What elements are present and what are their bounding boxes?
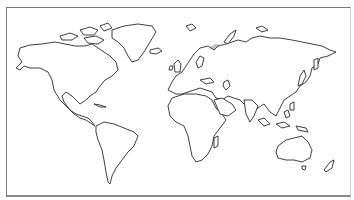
iceland [150, 48, 162, 54]
british-isles [169, 60, 181, 72]
south-america [96, 122, 138, 184]
world-map [0, 0, 354, 200]
madagascar [214, 136, 218, 148]
north-america [16, 42, 118, 126]
greenland [112, 24, 156, 62]
india [244, 100, 258, 122]
philippines [290, 102, 294, 110]
australia [276, 136, 312, 162]
new-zealand [324, 160, 334, 172]
svalbard [186, 24, 196, 31]
sakhalin [314, 58, 318, 70]
caribbean-islands [94, 104, 106, 107]
canadian-arctic-islands [60, 23, 112, 44]
indonesia [258, 110, 308, 132]
tasmania [302, 166, 306, 170]
siberian-islands [256, 26, 268, 32]
